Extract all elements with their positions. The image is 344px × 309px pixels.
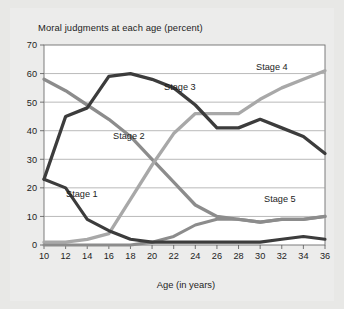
x-axis-title: Age (in years) bbox=[157, 279, 215, 290]
x-axis-tick-label: 28 bbox=[233, 251, 243, 261]
x-axis-tick-label: 36 bbox=[320, 251, 330, 261]
y-axis-tick-label: 20 bbox=[27, 183, 37, 193]
x-axis-tick-label: 24 bbox=[190, 251, 200, 261]
x-axis-tick-label: 32 bbox=[277, 251, 287, 261]
x-axis-tick-labels-group: 1012141618202224262830323436 bbox=[39, 251, 330, 261]
x-axis-tick-label: 16 bbox=[104, 251, 114, 261]
x-axis-tick-label: 18 bbox=[125, 251, 135, 261]
chart-figure: Moral judgments at each age (percent) 01… bbox=[0, 0, 344, 309]
x-axis-tick-label: 20 bbox=[147, 251, 157, 261]
x-axis-tick-label: 34 bbox=[298, 251, 308, 261]
series-label-stage4: Stage 4 bbox=[256, 62, 288, 72]
x-axis-tick-label: 26 bbox=[212, 251, 222, 261]
y-axis-tick-label: 30 bbox=[27, 155, 37, 165]
x-axis-tick-label: 22 bbox=[169, 251, 179, 261]
series-label-stage2: Stage 2 bbox=[113, 131, 145, 141]
y-axis-tick-labels-group: 010203040506070 bbox=[27, 40, 37, 250]
y-axis-tick-label: 70 bbox=[27, 40, 37, 50]
series-label-stage1: Stage 1 bbox=[66, 189, 98, 199]
y-axis-tick-label: 50 bbox=[27, 98, 37, 108]
y-axis-tick-label: 60 bbox=[27, 69, 37, 79]
x-axis-tick-label: 14 bbox=[82, 251, 92, 261]
x-axis-tick-label: 10 bbox=[39, 251, 49, 261]
x-axis-tick-label: 30 bbox=[255, 251, 265, 261]
y-axis-tick-label: 10 bbox=[27, 212, 37, 222]
line-chart-svg: 010203040506070 101214161820222426283032… bbox=[0, 0, 344, 309]
series-label-stage3: Stage 3 bbox=[164, 82, 196, 92]
y-axis-tick-label: 0 bbox=[32, 240, 37, 250]
y-axis-tick-label: 40 bbox=[27, 126, 37, 136]
plot-area-wrapper: 010203040506070 101214161820222426283032… bbox=[0, 0, 344, 309]
x-axis-tick-label: 12 bbox=[60, 251, 70, 261]
series-label-stage5: Stage 5 bbox=[264, 194, 296, 204]
